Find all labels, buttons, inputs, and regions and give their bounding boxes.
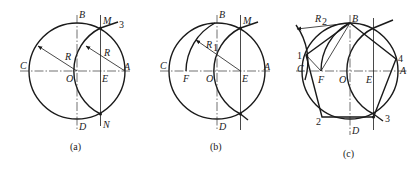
- label-F: F: [182, 73, 190, 84]
- label-O: O: [206, 73, 213, 84]
- label-A: A: [399, 65, 407, 76]
- caption-c: (c): [343, 148, 354, 160]
- point-M: [99, 27, 102, 30]
- label-R-right: R: [103, 47, 110, 58]
- point-M: [239, 27, 242, 30]
- label-1: 1: [297, 50, 302, 61]
- label-O: O: [339, 74, 346, 85]
- label-E: E: [101, 73, 108, 84]
- label-A: A: [263, 61, 271, 72]
- label-F: F: [317, 74, 325, 85]
- label-4: 4: [398, 53, 403, 64]
- label-R-left: R: [64, 51, 71, 62]
- label-C: C: [20, 60, 27, 71]
- radius-R1: [196, 40, 241, 71]
- caption-b: (b): [210, 141, 222, 153]
- label-C: C: [297, 63, 304, 74]
- label-3: 3: [119, 19, 124, 30]
- label-M: M: [102, 15, 112, 26]
- label-M: M: [242, 15, 252, 26]
- label-D: D: [351, 125, 360, 136]
- panel-c: R 2 B 1 4 C F O E A 2 3 D (c): [296, 13, 408, 160]
- point-N: [99, 113, 102, 116]
- point-3: [372, 115, 375, 118]
- label-N: N: [102, 119, 111, 130]
- label-2: 2: [316, 116, 321, 127]
- point-N: [239, 113, 242, 116]
- panel-b: B M R 1 C F O E A D (b): [160, 9, 271, 153]
- label-B: B: [352, 13, 358, 24]
- label-B: B: [219, 9, 225, 20]
- label-3: 3: [385, 113, 390, 124]
- caption-a: (a): [70, 141, 81, 153]
- label-R: R: [205, 39, 212, 50]
- label-R: R: [314, 13, 321, 24]
- panel-a: B M 3 C R R O E A D N (a): [20, 9, 131, 153]
- label-A: A: [123, 61, 131, 72]
- label-B: B: [79, 9, 85, 20]
- radius-R-left: [38, 46, 77, 71]
- label-R-subscript: 1: [213, 42, 218, 53]
- label-D: D: [218, 121, 227, 132]
- label-R-subscript: 2: [322, 16, 327, 27]
- label-E: E: [241, 73, 248, 84]
- pentagon-construction-diagram: B M 3 C R R O E A D N (a) B M R 1 C F O …: [0, 0, 418, 172]
- label-E: E: [365, 74, 372, 85]
- pentagon: [306, 23, 396, 117]
- label-O: O: [66, 73, 73, 84]
- arc-extension-top: [374, 20, 394, 28]
- label-D: D: [78, 121, 87, 132]
- label-C: C: [160, 60, 167, 71]
